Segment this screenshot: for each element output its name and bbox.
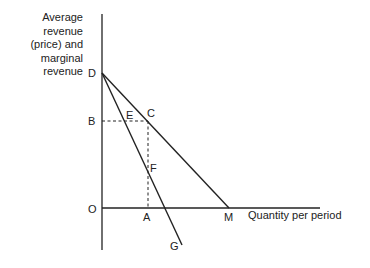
point-label-f: F <box>150 163 157 174</box>
point-label-d: D <box>88 68 96 79</box>
point-label-m: M <box>224 212 233 223</box>
marginal-revenue-line <box>102 73 182 245</box>
point-label-a: A <box>143 212 150 223</box>
point-label-o: O <box>88 204 97 215</box>
diagram-canvas <box>0 0 370 268</box>
average-revenue-line <box>102 73 229 208</box>
point-label-e: E <box>126 110 133 121</box>
point-label-c: C <box>147 108 155 119</box>
x-axis-label: Quantity per period <box>248 209 342 221</box>
point-label-g: G <box>170 241 179 252</box>
point-label-b: B <box>88 116 95 127</box>
